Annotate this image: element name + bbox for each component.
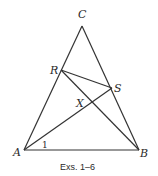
label-c: C: [78, 8, 87, 21]
label-r: R: [49, 64, 58, 77]
label-b: B: [139, 147, 148, 160]
angle-1-label: 1: [42, 140, 48, 150]
caption: Exs. 1–6: [60, 162, 95, 172]
triangle-diagram: C R S X A B 1 Exs. 1–6: [0, 0, 158, 176]
label-a: A: [12, 146, 21, 159]
label-s: S: [114, 82, 122, 95]
segment-rs: [61, 70, 112, 88]
segment-as: [24, 88, 112, 150]
segment-ac: [24, 26, 82, 150]
segment-rb: [61, 70, 139, 150]
label-x: X: [75, 97, 85, 110]
